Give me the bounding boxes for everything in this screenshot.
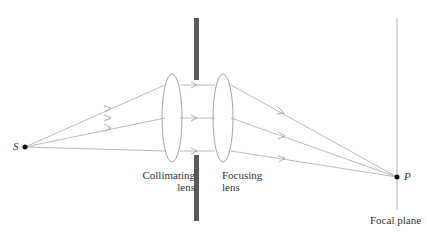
incident-rays	[25, 85, 397, 177]
focusing-label-line1: Focusing	[222, 169, 262, 181]
focal-point	[395, 175, 400, 180]
focusing-lens	[213, 74, 233, 162]
focal-plane-label: Focal plane	[370, 214, 421, 226]
collimating-label-line2: lens	[130, 181, 195, 193]
focusing-lens-label: Focusing lens	[222, 169, 262, 193]
optics-diagram	[0, 0, 427, 235]
source-point	[23, 145, 28, 150]
focusing-label-line2: lens	[222, 181, 262, 193]
point-label: P	[404, 170, 411, 182]
aperture-barrier-top	[194, 18, 199, 80]
source-label: S	[13, 140, 19, 152]
collimating-lens-label: Collimating lens	[130, 169, 195, 193]
collimating-label-line1: Collimating	[130, 169, 195, 181]
